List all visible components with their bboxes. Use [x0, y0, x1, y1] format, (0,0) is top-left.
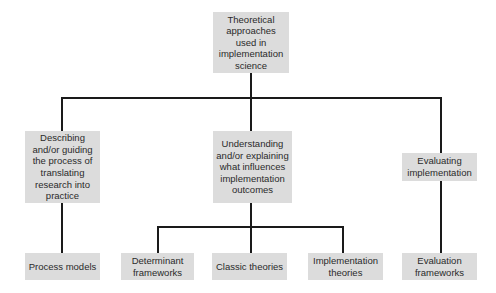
leaf-implementation-theories-label: Implementation theories	[310, 255, 381, 278]
connector-root-down	[250, 73, 252, 99]
leaf-determinant-frameworks: Determinant frameworks	[121, 253, 194, 280]
root-node: Theoretical approaches used in implement…	[213, 12, 289, 73]
leaf-evaluation-frameworks-label: Evaluation frameworks	[404, 255, 475, 278]
leaf-classic-theories: Classic theories	[212, 253, 287, 280]
leaf-determinant-frameworks-label: Determinant frameworks	[123, 255, 192, 278]
leaf-classic-theories-label: Classic theories	[216, 261, 283, 273]
connector-describing-to-process	[61, 203, 63, 253]
leaf-process-models-label: Process models	[29, 261, 97, 273]
root-label: Theoretical approaches used in implement…	[215, 14, 287, 72]
leaf-process-models: Process models	[25, 253, 100, 280]
category-evaluating-node: Evaluating implementation	[402, 153, 477, 181]
connector-to-determinant	[157, 226, 159, 253]
connector-level2-horizontal	[157, 226, 344, 228]
category-describing-node: Describing and/or guiding the process of…	[25, 131, 100, 203]
connector-to-describing	[61, 97, 63, 131]
connector-to-implementation-theories	[342, 226, 344, 253]
connector-evaluating-to-frameworks	[440, 181, 442, 253]
leaf-evaluation-frameworks: Evaluation frameworks	[402, 253, 477, 280]
connector-understanding-down	[250, 203, 252, 253]
category-describing-label: Describing and/or guiding the process of…	[27, 132, 98, 202]
connector-to-evaluating	[440, 97, 442, 153]
category-evaluating-label: Evaluating implementation	[404, 155, 475, 178]
leaf-implementation-theories: Implementation theories	[308, 253, 383, 280]
category-understanding-label: Understanding and/or explaining what inf…	[215, 138, 290, 196]
category-understanding-node: Understanding and/or explaining what inf…	[213, 131, 292, 203]
connector-to-understanding	[250, 97, 252, 131]
